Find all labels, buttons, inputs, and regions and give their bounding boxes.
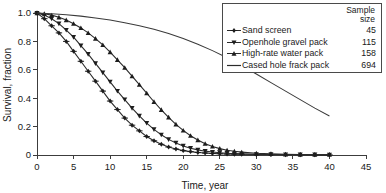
- data-marker: [107, 99, 113, 104]
- legend-sample-size: 115: [350, 37, 377, 48]
- legend-sample-size: 45: [350, 25, 377, 36]
- x-tick-label: 20: [178, 161, 189, 172]
- legend-header-size: size: [226, 15, 377, 24]
- data-marker: [70, 49, 76, 54]
- legend-label: Sand screen: [242, 25, 350, 36]
- legend-label: Openhole gravel pack: [242, 37, 350, 48]
- chart-figure: 05101520253035404500.20.40.60.81.0 Time,…: [0, 0, 386, 193]
- x-tick-label: 5: [71, 161, 76, 172]
- y-axis-title: Survival, fraction: [2, 48, 13, 122]
- data-marker: [100, 89, 106, 94]
- x-tick-label: 10: [105, 161, 116, 172]
- y-tick-label: 0.4: [18, 93, 31, 104]
- legend-sample-size: 694: [350, 60, 377, 71]
- x-tick-label: 30: [251, 161, 262, 172]
- data-marker: [78, 25, 83, 30]
- data-marker: [85, 69, 91, 74]
- x-tick-label: 40: [324, 161, 335, 172]
- y-tick-label: 0.6: [18, 64, 31, 75]
- data-marker: [78, 59, 84, 64]
- y-tick-label: 0.2: [18, 121, 31, 132]
- legend-item-4[interactable]: Cased hole frack pack694: [226, 60, 377, 72]
- data-marker: [114, 107, 120, 112]
- data-marker: [159, 133, 164, 138]
- data-marker: [165, 145, 171, 150]
- data-marker: [180, 148, 186, 153]
- legend-item-3[interactable]: High-rate water pack158: [226, 48, 377, 60]
- legend-entries: Sand screen45Openhole gravel pack115High…: [226, 25, 377, 71]
- data-marker: [173, 147, 179, 152]
- data-marker: [158, 142, 164, 147]
- legend-item-1[interactable]: Sand screen45: [226, 25, 377, 37]
- x-tick-label: 35: [288, 161, 299, 172]
- data-marker: [71, 21, 76, 26]
- y-tick-label: 1.0: [18, 7, 31, 18]
- chart-legend: Sample size Sand screen45Openhole gravel…: [222, 3, 382, 73]
- data-marker: [195, 138, 200, 143]
- legend-sample-size: 158: [350, 48, 377, 59]
- x-tick-label: 45: [361, 161, 372, 172]
- legend-marker-icon: [226, 61, 242, 70]
- x-axis-title: Time, year: [182, 180, 230, 191]
- y-tick-label: 0: [26, 149, 31, 160]
- x-tick-label: 0: [34, 161, 39, 172]
- legend-label: High-rate water pack: [242, 48, 350, 59]
- data-marker: [92, 79, 98, 84]
- legend-marker-icon: [226, 26, 242, 35]
- data-marker: [231, 28, 237, 33]
- data-marker: [166, 137, 171, 142]
- legend-marker-icon: [226, 49, 242, 58]
- x-tick-label: 15: [141, 161, 152, 172]
- legend-item-2[interactable]: Openhole gravel pack115: [226, 37, 377, 49]
- data-marker: [203, 141, 208, 146]
- x-tick-label: 25: [214, 161, 225, 172]
- legend-marker-icon: [226, 38, 242, 47]
- legend-label: Cased hole frack pack: [242, 60, 350, 71]
- legend-header-sample: Sample: [226, 6, 377, 15]
- data-marker: [63, 39, 69, 44]
- y-tick-label: 0.8: [18, 36, 31, 47]
